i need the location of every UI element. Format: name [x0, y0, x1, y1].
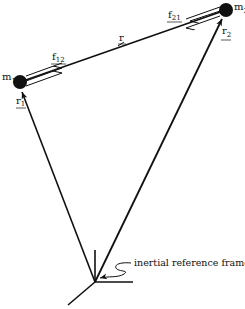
- force-f21-label: f21: [168, 9, 181, 22]
- vector-r2-label: r2: [222, 25, 231, 39]
- vector-r1: [22, 92, 95, 282]
- mass-m2-label: m2: [234, 1, 245, 15]
- mass-m2-dot: [219, 3, 233, 17]
- force-f12: [26, 63, 62, 86]
- mass-m1-label: m1: [2, 71, 16, 85]
- vector-r-label: r: [119, 32, 124, 43]
- force-f12-label: f12: [52, 51, 65, 64]
- figure-caption: [4, 302, 244, 309]
- vector-r: [20, 10, 226, 82]
- frame-pointer: [100, 263, 131, 278]
- vector-r2: [95, 19, 222, 282]
- two-body-diagram: m1 m2 r r1 r2 f12 f21 inertial reference…: [0, 0, 245, 309]
- frame-label: inertial reference frame: [134, 257, 245, 268]
